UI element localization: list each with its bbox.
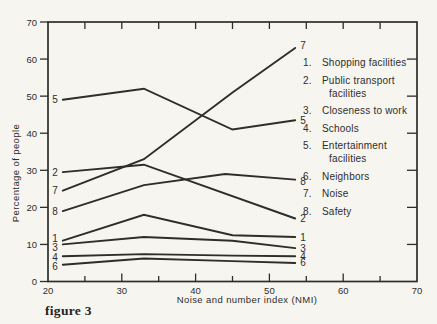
- y-axis-title: Percentage of people: [10, 124, 21, 222]
- legend-item-line: Public transport: [322, 74, 395, 87]
- series-start-label-7: 7: [52, 185, 58, 196]
- legend-item-6: 6.Neighbors: [303, 170, 428, 183]
- legend-item-label: Shopping facilities: [322, 56, 406, 69]
- legend-item-line: Closeness to work: [322, 104, 407, 117]
- y-tick-label-40: 40: [26, 128, 37, 139]
- y-tick-label-70: 70: [26, 17, 37, 28]
- legend-item-3: 3.Closeness to work: [303, 104, 428, 117]
- series-line-1: [63, 215, 295, 241]
- x-axis-title: Noise and number index (NMI): [177, 294, 318, 305]
- legend-item-number: 1.: [303, 56, 316, 69]
- legend-item-number: 6.: [303, 170, 316, 183]
- legend-item-2: 2.Public transportfacilities: [303, 74, 428, 100]
- x-tick-label-70: 70: [412, 285, 423, 296]
- legend-item-number: 8.: [303, 205, 316, 218]
- y-tick-label-50: 50: [26, 91, 37, 102]
- series-start-label-2: 2: [52, 167, 58, 178]
- figure-page: 0102030405060702030405060701122334455667…: [0, 0, 437, 324]
- series-start-label-5: 5: [52, 94, 58, 105]
- legend-item-number: 5.: [303, 139, 316, 165]
- legend-item-label: Schools: [322, 122, 359, 135]
- legend-item-number: 3.: [303, 104, 316, 117]
- series-line-6: [63, 259, 295, 265]
- y-tick-label-20: 20: [26, 202, 37, 213]
- figure-caption: figure 3: [45, 303, 92, 319]
- legend-item-1: 1.Shopping facilities: [303, 56, 428, 69]
- y-tick-label-60: 60: [26, 54, 37, 65]
- y-tick-label-0: 0: [32, 276, 37, 287]
- legend-item-8: 8.Safety: [303, 205, 428, 218]
- legend-item-label: Noise: [322, 187, 349, 200]
- legend-item-line: Noise: [322, 187, 349, 200]
- legend-item-line: Entertainment: [322, 139, 387, 152]
- legend-item-label: Safety: [322, 205, 352, 218]
- x-tick-label-20: 20: [43, 285, 54, 296]
- y-tick-label-10: 10: [26, 239, 37, 250]
- series-end-label-1: 1: [300, 232, 306, 243]
- series-start-label-8: 8: [52, 206, 58, 217]
- x-tick-label-30: 30: [117, 285, 128, 296]
- legend-item-label: Entertainmentfacilities: [322, 139, 387, 165]
- legend-item-label: Closeness to work: [322, 104, 407, 117]
- series-line-4: [63, 254, 295, 256]
- legend-item-5: 5.Entertainmentfacilities: [303, 139, 428, 165]
- series-end-label-7: 7: [300, 40, 306, 51]
- legend-item-number: 4.: [303, 122, 316, 135]
- series-line-3: [63, 237, 295, 248]
- legend-item-line: Schools: [322, 122, 359, 135]
- legend-item-line: Neighbors: [322, 170, 369, 183]
- series-start-label-6: 6: [52, 261, 58, 272]
- legend-item-7: 7.Noise: [303, 187, 428, 200]
- legend-item-line: Shopping facilities: [322, 56, 406, 69]
- legend-item-line: facilities: [322, 87, 395, 100]
- series-line-5: [63, 89, 295, 130]
- x-tick-label-60: 60: [338, 285, 349, 296]
- legend-item-line: Safety: [322, 205, 352, 218]
- legend-item-4: 4.Schools: [303, 122, 428, 135]
- legend-item-line: facilities: [322, 152, 387, 165]
- series-end-label-6: 6: [300, 257, 306, 268]
- y-tick-label-30: 30: [26, 165, 37, 176]
- legend-item-number: 7.: [303, 187, 316, 200]
- legend-item-label: Public transportfacilities: [322, 74, 395, 100]
- legend-item-label: Neighbors: [322, 170, 369, 183]
- legend-item-number: 2.: [303, 74, 316, 100]
- series-line-2: [63, 165, 295, 219]
- chart-legend: 1.Shopping facilities2.Public transportf…: [303, 56, 428, 222]
